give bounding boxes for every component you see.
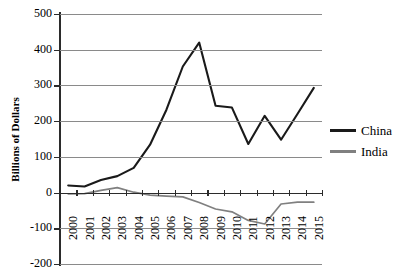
x-tick-label-2001: 2001 <box>84 196 97 240</box>
legend-item-china[interactable]: China <box>330 120 410 141</box>
x-tick-label-2007: 2007 <box>182 196 195 240</box>
y-tick-label-500: 500 <box>34 7 52 19</box>
x-tick-label-2008: 2008 <box>198 196 211 240</box>
legend-swatch-india <box>330 150 356 153</box>
legend-item-india[interactable]: India <box>330 141 410 162</box>
y-axis-tick-labels: 5004003002001000-100-200 <box>0 0 52 279</box>
x-tick-label-2011: 2011 <box>247 196 260 240</box>
gridline--200 <box>60 264 322 265</box>
y-tick-label--100: -100 <box>30 221 52 233</box>
y-tick-mark-200 <box>54 121 59 122</box>
y-tick-label-300: 300 <box>34 78 52 90</box>
gridline-400 <box>60 50 322 51</box>
x-tick-label-2015: 2015 <box>313 196 326 240</box>
x-axis-tick-labels: 2000200120022003200420052006200720082009… <box>60 196 322 242</box>
x-tick-label-2012: 2012 <box>264 196 277 240</box>
y-tick-mark-0 <box>54 193 59 194</box>
x-tick-label-2014: 2014 <box>296 196 309 240</box>
y-tick-label-100: 100 <box>34 150 52 162</box>
x-tick-label-2003: 2003 <box>116 196 129 240</box>
y-tick-mark-300 <box>54 85 59 86</box>
y-tick-label-200: 200 <box>34 114 52 126</box>
gridline-500 <box>60 14 322 15</box>
y-tick-label--200: -200 <box>30 257 52 269</box>
y-tick-mark--100 <box>54 228 59 229</box>
legend-label-india: India <box>361 144 388 160</box>
gridline-100 <box>60 157 322 158</box>
x-tick-label-2013: 2013 <box>280 196 293 240</box>
x-tick-label-2005: 2005 <box>149 196 162 240</box>
y-tick-mark-100 <box>54 157 59 158</box>
chart-legend: ChinaIndia <box>330 120 410 162</box>
gridline-200 <box>60 121 322 122</box>
y-tick-label-400: 400 <box>34 43 52 55</box>
x-tick-label-2004: 2004 <box>133 196 146 240</box>
x-tick-label-2000: 2000 <box>67 196 80 240</box>
x-tick-label-2009: 2009 <box>215 196 228 240</box>
gridline-300 <box>60 85 322 86</box>
legend-label-china: China <box>361 123 392 139</box>
series-line-china <box>68 43 314 187</box>
y-tick-mark-400 <box>54 50 59 51</box>
chart-figure: Billions of Dollars 5004003002001000-100… <box>0 0 410 279</box>
y-tick-mark--200 <box>54 264 59 265</box>
y-tick-mark-500 <box>54 14 59 15</box>
legend-swatch-china <box>330 129 356 132</box>
x-tick-label-2006: 2006 <box>165 196 178 240</box>
x-tick-label-2010: 2010 <box>231 196 244 240</box>
y-tick-label-0: 0 <box>46 186 52 198</box>
x-tick-label-2002: 2002 <box>100 196 113 240</box>
